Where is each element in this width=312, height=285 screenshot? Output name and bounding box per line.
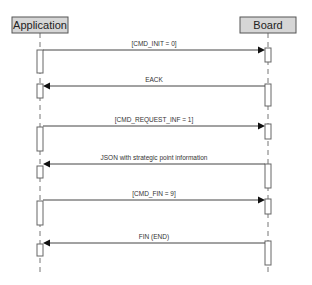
message-eack: EACK — [43, 76, 265, 90]
arrow-left-icon — [43, 240, 50, 247]
activation-bar — [37, 50, 43, 73]
activation-bar — [265, 199, 271, 214]
arrow-left-icon — [43, 161, 50, 168]
message-cmd-request-inf: [CMD_REQUEST_INF = 1] — [43, 116, 265, 130]
participant-application: Application — [12, 17, 68, 33]
message-label: EACK — [145, 76, 163, 83]
activation-bar — [265, 84, 271, 106]
arrow-left-icon — [43, 83, 50, 90]
participant-label: Board — [253, 19, 282, 31]
activation-bar — [37, 84, 43, 98]
arrow-right-icon — [258, 123, 265, 130]
participant-label: Application — [13, 19, 67, 31]
message-cmd-init: [CMD_INIT = 0] — [43, 40, 265, 54]
message-json-strategic-points: JSON with strategic point information — [43, 154, 265, 168]
activation-bar — [37, 244, 43, 256]
message-label: [CMD_REQUEST_INF = 1] — [115, 116, 194, 124]
activation-bar — [265, 164, 271, 188]
message-fin-end: FIN (END) — [43, 233, 265, 247]
message-cmd-fin: [CMD_FIN = 9] — [43, 190, 265, 204]
message-label: FIN (END) — [139, 233, 169, 241]
arrow-right-icon — [258, 197, 265, 204]
activation-bar — [265, 48, 271, 62]
message-label: [CMD_INIT = 0] — [131, 40, 176, 48]
activation-bar — [265, 124, 271, 139]
message-label: [CMD_FIN = 9] — [132, 190, 176, 198]
activation-bar — [265, 241, 271, 265]
activation-bar — [37, 166, 43, 178]
activation-bar — [37, 127, 43, 151]
participant-board: Board — [240, 17, 296, 33]
message-label: JSON with strategic point information — [101, 154, 208, 162]
arrow-right-icon — [258, 47, 265, 54]
activation-bar — [37, 201, 43, 225]
sequence-diagram: Application Board [CMD_INIT = 0] EACK [C… — [0, 0, 312, 285]
